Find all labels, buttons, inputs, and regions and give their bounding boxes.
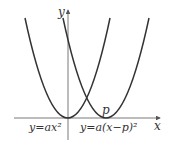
x-axis-label: x (154, 119, 161, 133)
curve-label-1: y=ax² (28, 121, 62, 134)
y-axis-label: y (57, 5, 65, 19)
parabola-ax2 (25, 18, 110, 118)
curve-label-2: y=a(x−p)² (79, 121, 137, 134)
point-p-label: p (102, 103, 110, 117)
parabola-diagram: y x p y=ax² y=a(x−p)² (0, 0, 171, 146)
